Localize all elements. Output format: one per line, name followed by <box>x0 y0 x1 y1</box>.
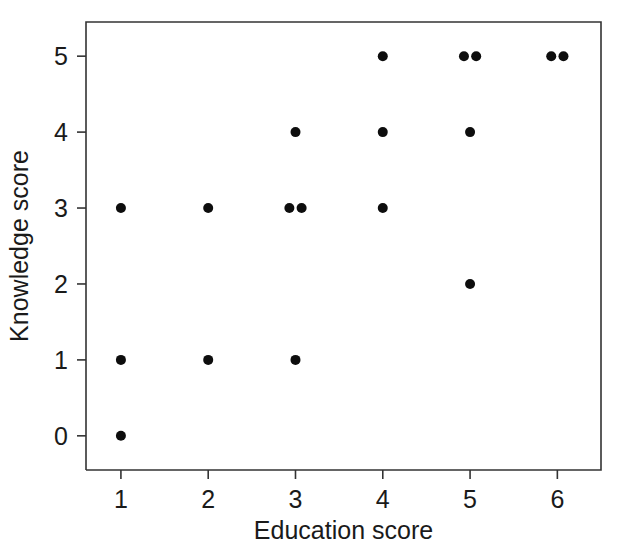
y-tick-label: 3 <box>54 194 68 222</box>
data-point <box>546 51 556 61</box>
x-tick-label: 2 <box>201 485 215 513</box>
x-tick-label: 4 <box>376 485 390 513</box>
x-tick-label: 5 <box>463 485 477 513</box>
y-tick-label: 5 <box>54 42 68 70</box>
y-tick-label: 4 <box>54 118 68 146</box>
x-tick-label: 1 <box>114 485 128 513</box>
plot-canvas: 123456 012345 Education score Knowledge … <box>0 0 630 555</box>
data-point <box>116 431 126 441</box>
data-point <box>203 355 213 365</box>
data-point <box>203 203 213 213</box>
y-tick-label: 1 <box>54 346 68 374</box>
data-point <box>116 355 126 365</box>
data-point <box>378 51 388 61</box>
x-tick-label: 3 <box>289 485 303 513</box>
data-point <box>290 355 300 365</box>
data-point <box>459 51 469 61</box>
data-point <box>378 203 388 213</box>
data-point <box>297 203 307 213</box>
scatter-plot-figure: 123456 012345 Education score Knowledge … <box>0 0 630 555</box>
data-point <box>558 51 568 61</box>
data-point <box>290 127 300 137</box>
data-point <box>116 203 126 213</box>
y-tick-label: 0 <box>54 422 68 450</box>
data-point <box>471 51 481 61</box>
x-axis-title: Education score <box>254 516 433 544</box>
data-point <box>284 203 294 213</box>
y-tick-label: 2 <box>54 270 68 298</box>
data-point <box>465 127 475 137</box>
figure-background <box>0 0 630 555</box>
y-axis-title: Knowledge score <box>5 150 33 342</box>
data-point <box>465 279 475 289</box>
data-point <box>378 127 388 137</box>
x-tick-label: 6 <box>550 485 564 513</box>
